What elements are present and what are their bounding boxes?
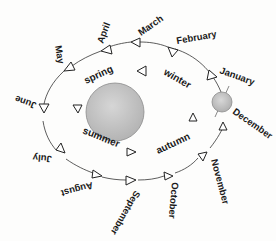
orbit-diagram: January February March April May June Ju…: [0, 0, 276, 241]
arrow-september-icon: [126, 176, 136, 185]
arrow-inner-spring-icon: [137, 66, 146, 76]
arrow-november-icon: [198, 152, 207, 161]
month-label-july: July: [32, 152, 53, 165]
earth-icon: [212, 86, 232, 117]
arrow-january-icon: [207, 70, 217, 80]
arrow-inner-summer-icon: [73, 105, 82, 113]
arrow-march-icon: [131, 38, 140, 47]
month-labels: January February March April May June Ju…: [13, 12, 275, 237]
month-label-november: November: [209, 158, 232, 206]
season-label-autumn: autumn: [154, 131, 191, 156]
month-label-january: January: [218, 65, 257, 88]
season-label-winter: winter: [161, 66, 193, 91]
month-label-june: June: [13, 94, 38, 112]
arrow-december-icon: [219, 122, 227, 130]
month-label-march: March: [136, 12, 165, 37]
month-label-august: August: [59, 180, 94, 199]
arrow-june-icon: [39, 104, 49, 113]
month-label-september: September: [109, 189, 143, 237]
arrow-inner-winter-icon: [189, 113, 197, 121]
arrow-february-icon: [168, 47, 178, 57]
month-label-may: May: [53, 44, 67, 65]
month-label-april: April: [95, 21, 113, 45]
arrow-may-icon: [64, 62, 75, 71]
season-label-spring: spring: [82, 63, 114, 86]
month-label-october: October: [167, 182, 181, 220]
arrow-april-icon: [101, 45, 112, 54]
month-label-december: December: [231, 106, 275, 142]
month-label-february: February: [175, 28, 218, 46]
arrow-august-icon: [92, 170, 102, 178]
arrow-october-icon: [164, 172, 173, 180]
arrow-inner-autumn-icon: [127, 148, 136, 156]
arrow-july-icon: [56, 143, 65, 153]
